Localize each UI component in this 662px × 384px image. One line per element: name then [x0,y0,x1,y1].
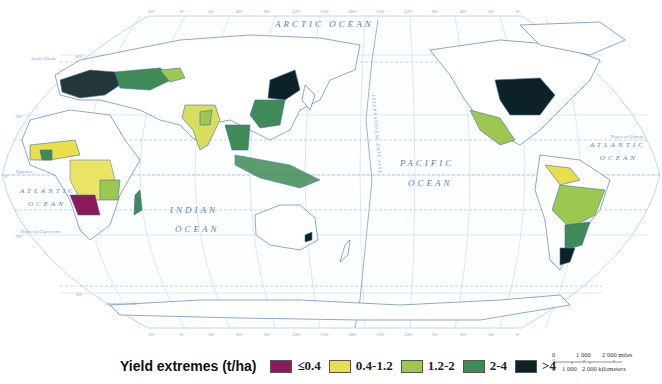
svg-text:120°: 120° [404,9,414,14]
svg-text:30°: 30° [208,9,215,14]
indian-ocean-label: INDIAN [169,205,218,215]
antarctic-circle-label: Antarctic Circle [104,301,138,306]
svg-text:1 000: 1 000 [562,365,577,372]
svg-text:150°: 150° [320,332,330,337]
svg-text:0: 0 [552,351,555,358]
legend-item: 1.2-2 [401,358,455,374]
svg-text:60°: 60° [76,54,83,59]
svg-text:2 000 miles: 2 000 miles [602,351,633,358]
atlantic-ocean-label-east-2: OCEAN [28,200,66,208]
legend-item: 0.4-1.2 [329,358,393,374]
atlantic-ocean-label-east: ATLANTIC [19,187,76,195]
svg-text:30°: 30° [488,332,495,337]
arctic-circle-label: Arctic Circle [29,56,56,61]
svg-text:60°: 60° [460,9,467,14]
scale-bar: 0 1 000 2 000 miles 0 1 000 2 000 kilome… [550,349,660,379]
indian-ocean-label-2: OCEAN [175,224,220,234]
svg-text:90°: 90° [264,332,271,337]
svg-text:30°: 30° [488,9,495,14]
svg-text:180°: 180° [348,332,358,337]
svg-text:60°: 60° [236,9,243,14]
svg-text:30°: 30° [16,234,23,239]
world-yield-map: ARCTIC OCEAN PACIFIC OCEAN ATLANTIC OCEA… [0,0,662,340]
equator-label: Equator [15,169,32,174]
svg-text:0°: 0° [516,9,521,14]
svg-text:150°: 150° [376,9,386,14]
svg-text:90°: 90° [264,9,271,14]
svg-text:120°: 120° [292,9,302,14]
svg-text:120°: 120° [292,332,302,337]
arctic-ocean-label: ARCTIC OCEAN [274,19,374,29]
pacific-ocean-label: PACIFIC [399,158,454,168]
legend-title: Yield extremes (t/ha) [120,358,256,374]
svg-text:0°: 0° [180,332,185,337]
svg-text:0°: 0° [180,9,185,14]
legend-swatch [329,360,351,373]
svg-text:30°: 30° [148,9,155,14]
legend-swatch [270,360,292,373]
legend-item: ≤0.4 [270,358,320,374]
svg-text:2 000 kilometers: 2 000 kilometers [582,365,626,372]
svg-text:60°: 60° [76,292,83,297]
legend-swatch [401,360,423,373]
svg-text:0°: 0° [516,332,521,337]
svg-text:1 000: 1 000 [576,351,591,358]
svg-text:90°: 90° [432,332,439,337]
svg-text:180°: 180° [348,9,358,14]
svg-text:150°: 150° [376,332,386,337]
svg-text:0: 0 [552,365,555,372]
tropic-cancer-label: Tropic of Cancer [610,134,644,139]
svg-text:0°: 0° [4,174,9,179]
svg-text:30°: 30° [208,332,215,337]
tropic-capricorn-label: Tropic of Capricorn [20,229,61,234]
legend-swatch [515,360,537,373]
atlantic-ocean-label-west-2: OCEAN [600,154,638,162]
legend-swatch [463,360,485,373]
legend-item: 2-4 [463,358,507,374]
svg-text:60°: 60° [460,332,467,337]
svg-text:90°: 90° [432,9,439,14]
atlantic-ocean-label-west: ATLANTIC [589,141,646,149]
svg-text:120°: 120° [404,332,414,337]
legend: Yield extremes (t/ha) ≤0.4 0.4-1.2 1.2-2… [120,356,564,376]
svg-text:30°: 30° [148,332,155,337]
svg-text:60°: 60° [236,332,243,337]
svg-text:150°: 150° [320,9,330,14]
pacific-ocean-label-2: OCEAN [408,178,453,188]
svg-text:30°: 30° [16,114,23,119]
